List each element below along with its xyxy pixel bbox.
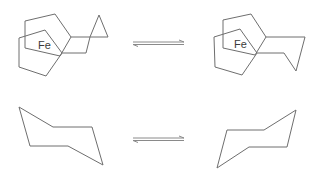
six-membered-bridge-ring <box>257 37 305 71</box>
ferrocene-structure-left: Fe <box>19 14 108 76</box>
front-cyclopentadienyl-ring <box>214 29 257 75</box>
iron-label: Fe <box>38 39 51 51</box>
iron-label: Fe <box>234 38 247 50</box>
cyclohexane-chair-left <box>19 107 103 165</box>
diagram-canvas: Fe Fe <box>0 0 321 174</box>
cyclohexane-chair-right <box>217 110 296 168</box>
ferrocene-structure-right: Fe <box>214 14 305 75</box>
equilibrium-arrow-top <box>133 40 184 47</box>
cyclopropane-ring <box>90 15 108 37</box>
equilibrium-arrow-bottom <box>133 136 184 143</box>
